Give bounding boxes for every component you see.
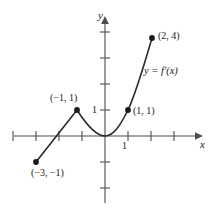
y-axis-label: y [98, 10, 103, 21]
point-neg1-1 [74, 107, 80, 113]
point-1-1 [125, 107, 131, 113]
x-axis-tick-label-1: 1 [122, 141, 127, 151]
point-2-4 [149, 35, 155, 41]
point-neg3-neg1 [33, 159, 39, 165]
y-axis-tick-label-1: 1 [92, 105, 97, 115]
curve-smooth-segment [77, 38, 152, 136]
point-label-neg3-neg1: (−3, −1) [31, 168, 64, 178]
point-label-1-1: (1, 1) [133, 106, 155, 116]
graph-figure: y x 1 1 (−1, 1) (1, 1) (2, 4) (−3, −1) y… [0, 0, 213, 209]
point-label-neg1-1: (−1, 1) [50, 93, 77, 103]
y-axis [100, 16, 110, 203]
point-label-2-4: (2, 4) [158, 31, 180, 41]
x-axis-label: x [200, 139, 205, 150]
curve-equation-label: y = f′(x) [144, 66, 178, 77]
